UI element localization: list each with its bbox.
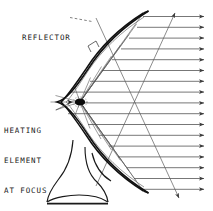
heating-element-label-line3: AT FOCUS	[4, 186, 47, 196]
reflector-label: REFLECTOR	[22, 13, 71, 63]
reflector-leader-line	[70, 18, 92, 22]
reflector-label-text: REFLECTOR	[22, 33, 71, 43]
pedestal-stand	[47, 140, 111, 204]
heating-element-label-line1: HEATING	[4, 126, 47, 136]
heating-element-at-focus	[73, 97, 87, 107]
heating-element-label: HEATING ELEMENT AT FOCUS	[4, 106, 47, 211]
heating-element-label-line2: ELEMENT	[4, 156, 47, 166]
parallel-ray-group	[68, 17, 204, 190]
dish-detail-mark	[88, 41, 99, 52]
parabolic-reflector-figure: REFLECTOR HEATING ELEMENT AT FOCUS	[0, 0, 213, 211]
axis-arrow-down	[96, 18, 179, 198]
